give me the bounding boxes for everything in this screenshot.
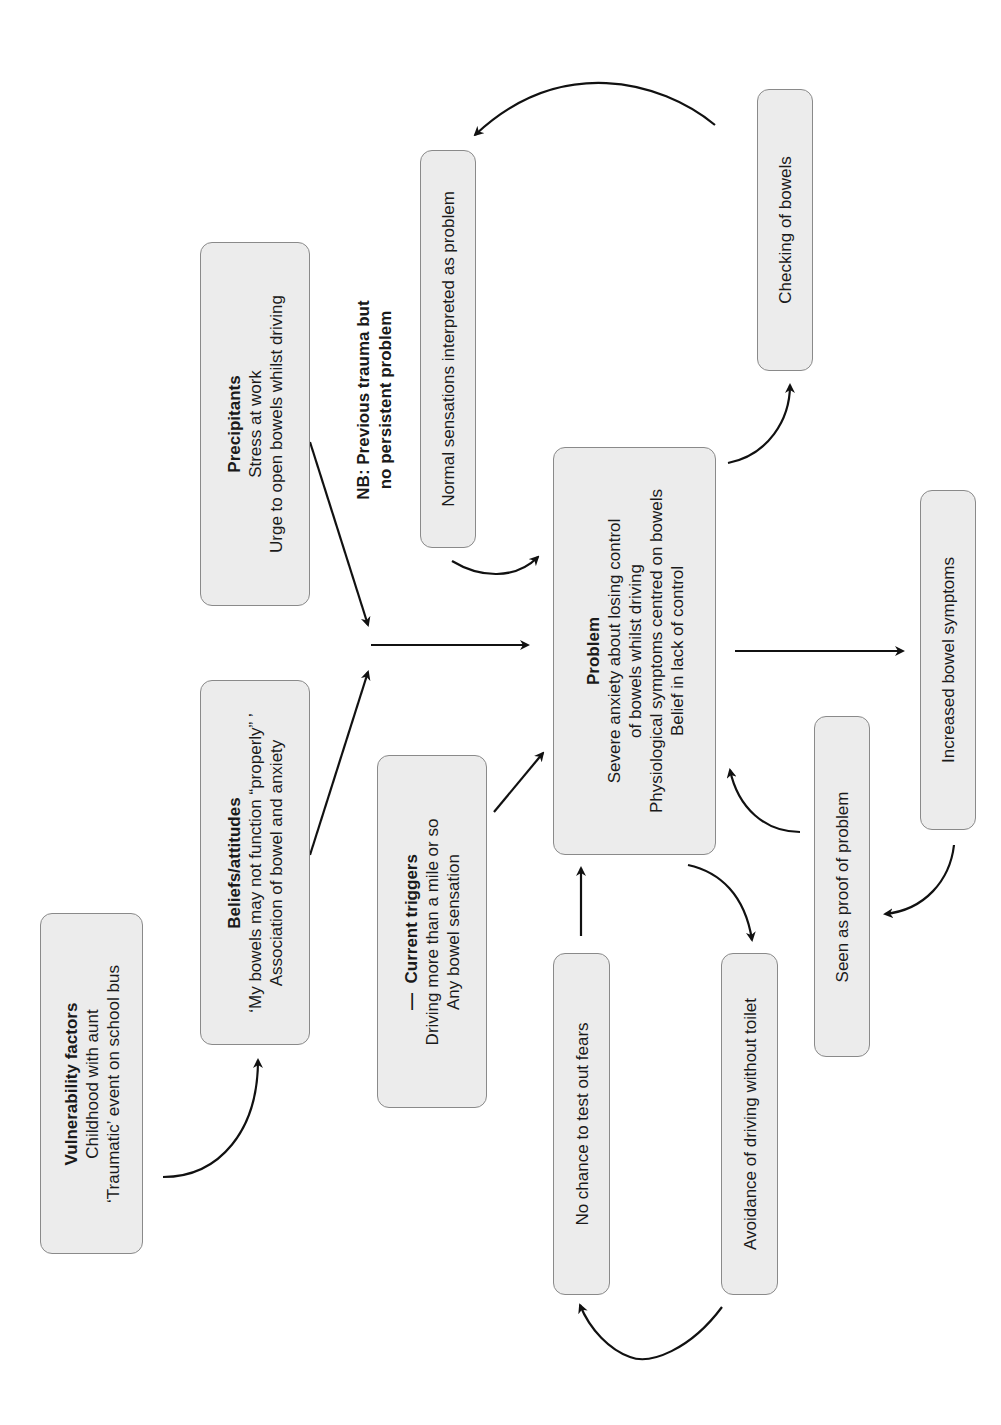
arrow-vulnerability-to-beliefs: [163, 1060, 258, 1177]
node-label: Avoidance of driving without toilet: [739, 998, 760, 1250]
node-avoidance-of-driving: Avoidance of driving without toilet: [721, 953, 778, 1295]
arrow-layer: [0, 0, 1001, 1425]
node-line: Severe anxiety about losing control: [603, 489, 624, 813]
node-checking-of-bowels: Checking of bowels: [757, 89, 813, 371]
node-current-triggers: — Current triggers Driving more than a m…: [377, 755, 487, 1108]
node-increased-bowel-symptoms: Increased bowel symptoms: [920, 490, 976, 830]
node-beliefs-attitudes: Beliefs/attitudes ‘My bowels may not fun…: [200, 680, 310, 1045]
node-line: Urge to open bowels whilst driving: [266, 295, 287, 553]
arrow-increased-to-proof: [885, 845, 954, 914]
node-title: Problem: [582, 489, 603, 813]
node-vulnerability-factors: Vulnerability factors Childhood with aun…: [40, 913, 143, 1254]
arrow-triggers-to-problem: [494, 753, 543, 812]
node-line: of bowels whilst driving: [624, 489, 645, 813]
node-label: Normal sensations interpreted as problem: [438, 191, 459, 507]
arrow-checking-to-normal: [475, 83, 715, 135]
arrow-proof-to-problem: [730, 770, 800, 832]
node-line: Association of bowel and anxiety: [266, 713, 287, 1013]
node-line: ‘Traumatic’ event on school bus: [102, 965, 123, 1203]
node-label: Increased bowel symptoms: [938, 557, 959, 763]
node-line: Belief in lack of control: [666, 489, 687, 813]
node-line: ‘My bowels may not function “properly” ’: [245, 713, 266, 1013]
arrow-avoidance-to-nochance: [580, 1305, 722, 1359]
arrow-normal-to-problem: [452, 557, 538, 574]
node-title: Precipitants: [224, 295, 245, 553]
node-title: Vulnerability factors: [60, 965, 81, 1203]
node-no-chance-to-test: No chance to test out fears: [553, 953, 610, 1295]
note-previous-trauma: NB: Previous trauma but no persistent pr…: [340, 240, 410, 560]
note-line: no persistent problem: [375, 300, 397, 499]
node-label: No chance to test out fears: [571, 1022, 592, 1225]
node-problem: Problem Severe anxiety about losing cont…: [553, 447, 716, 855]
arrow-beliefs-to-junction: [310, 672, 368, 855]
note-line: NB: Previous trauma but: [353, 300, 375, 499]
node-line: Childhood with aunt: [81, 965, 102, 1203]
arrow-problem-to-avoidance: [688, 865, 752, 940]
node-precipitants: Precipitants Stress at work Urge to open…: [200, 242, 310, 606]
node-line: Stress at work: [245, 295, 266, 553]
node-line: Physiological symptoms centred on bowels: [645, 489, 666, 813]
node-line: Driving more than a mile or so: [422, 818, 443, 1045]
node-label: Checking of bowels: [775, 156, 796, 303]
node-label: Seen as proof of problem: [832, 791, 853, 982]
arrow-problem-to-checking: [728, 385, 790, 463]
dash-marker: —: [402, 992, 421, 1009]
node-seen-as-proof: Seen as proof of problem: [814, 716, 870, 1057]
node-line: Any bowel sensation: [443, 818, 464, 1045]
node-title: Current triggers: [402, 854, 421, 983]
node-normal-sensations: Normal sensations interpreted as problem: [420, 150, 476, 548]
node-title: Beliefs/attitudes: [224, 713, 245, 1013]
